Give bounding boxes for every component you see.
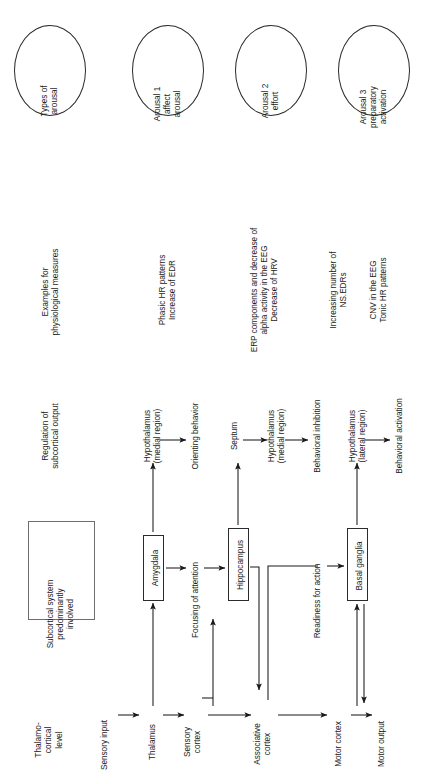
box-amygdala-label: Amygdala bbox=[151, 536, 161, 600]
node-sensory-input: Sensory input bbox=[100, 709, 110, 781]
node-behavioral-inhibition: Behavioral inhibition bbox=[313, 376, 323, 496]
physiological-measures-arousal-3b: CNV in the EEGTonic HR patterns bbox=[369, 225, 389, 355]
physiological-measures-arousal-2: ERP components and decrease ofalpha acti… bbox=[250, 212, 280, 368]
arrow-hippocampus-to-associative-cortex bbox=[250, 567, 259, 690]
link-label-focusing-of-attention: Focusing of attention bbox=[191, 552, 201, 648]
box-basal-ganglia-label: Basal ganglia bbox=[355, 530, 365, 602]
ellipse-types-of-arousal-label: Types ofarousal bbox=[40, 63, 60, 139]
ellipse-arousal-2-label: Arousal 2effort bbox=[261, 61, 281, 141]
row-header-regulation: Regulation ofsubcortical output bbox=[40, 376, 61, 496]
node-motor-output: Motor output bbox=[377, 706, 387, 782]
node-behavioral-activation: Behavioral activation bbox=[395, 376, 405, 496]
ellipse-arousal-3-label: Arousal 3preparatoryactivation bbox=[359, 65, 389, 149]
link-label-readiness-for-action: Readiness for action bbox=[313, 553, 323, 649]
node-associative-cortex: Associativecortex bbox=[253, 704, 273, 784]
physiological-measures-arousal-3a: Increasing number ofNS.EDRs bbox=[329, 225, 349, 355]
node-hypothalamus-lateral: Hypothalamus(lateral region) bbox=[348, 376, 368, 496]
box-hippocampus-label: Hippocampus bbox=[236, 529, 246, 601]
node-thalamus: Thalamus bbox=[148, 706, 158, 778]
node-septum: Septum bbox=[230, 376, 240, 496]
node-hypothalamus-medial-1: Hypothalamus(medial region) bbox=[143, 376, 163, 496]
node-hypothalamus-medial-2: Hypothalamus(medial region) bbox=[267, 376, 287, 496]
ellipse-arousal-1-label: Arousal 1affectarousal bbox=[153, 64, 183, 144]
legend-box-subcortical-system-label: Subcortical systempredominantlyinvolved bbox=[46, 566, 76, 662]
node-motor-cortex: Motor cortex bbox=[334, 706, 344, 782]
row-header-physiological-measures: Examples forphysiological measures bbox=[40, 227, 61, 357]
physiological-measures-arousal-1: Phasic HR patternsIncrease of EDR bbox=[158, 225, 178, 355]
arousal-model-diagram: Types ofarousal Arousal 1affectarousal A… bbox=[0, 0, 427, 784]
elbow-associative-cortex-to-readiness bbox=[268, 566, 318, 700]
node-sensory-cortex: Sensorycortex bbox=[183, 704, 203, 780]
row-header-thalamo-cortical-level: Thalamo-corticallevel bbox=[33, 704, 64, 776]
node-orienting-behavior: Orienting behavior bbox=[191, 376, 201, 496]
